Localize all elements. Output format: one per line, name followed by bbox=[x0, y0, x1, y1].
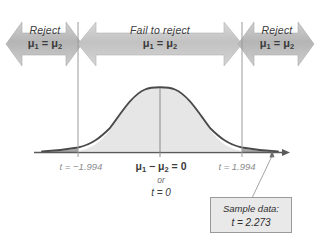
hypothesis-test-figure: Reject μ1 = μ2 Fail to reject μ1 = μ2 Re… bbox=[0, 0, 321, 244]
callout-leader-line bbox=[252, 156, 272, 198]
fail-to-reject-arrow bbox=[78, 22, 242, 66]
sample-data-value: t = 2.273 bbox=[211, 217, 291, 228]
sample-data-callout: Sample data: t = 2.273 bbox=[210, 197, 292, 233]
reject-arrow-right bbox=[238, 22, 314, 66]
reject-arrow-left bbox=[6, 22, 82, 66]
x-axis-arrowhead bbox=[282, 149, 290, 156]
sample-data-title: Sample data: bbox=[211, 203, 291, 214]
